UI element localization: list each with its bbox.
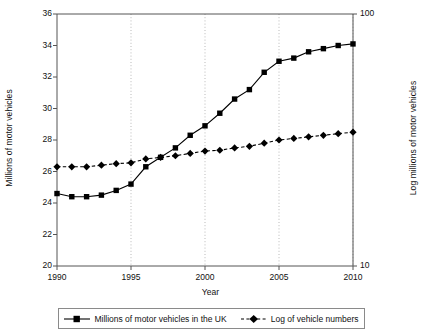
data-point-1 [127,159,134,166]
data-point-1 [231,144,238,151]
legend-item-1: Log of vehicle numbers [241,314,359,324]
data-point-1 [305,133,312,140]
data-point-1 [83,163,90,170]
data-point-1 [349,129,356,136]
data-point-1 [53,163,60,170]
data-point-1 [275,136,282,143]
legend-item-0: Millions of motor vehicles in the UK [64,314,226,324]
data-point-1 [290,135,297,142]
data-point-0 [276,59,281,64]
data-point-0 [143,164,148,169]
data-point-1 [187,150,194,157]
data-point-0 [128,181,133,186]
chart-figure: Millions of motor vehicles Log millions … [0,0,421,335]
legend-label-0: Millions of motor vehicles in the UK [94,314,226,324]
plot-area [0,0,421,335]
data-point-1 [98,162,105,169]
data-point-0 [262,70,267,75]
data-point-1 [142,155,149,162]
data-point-0 [188,133,193,138]
data-point-0 [217,111,222,116]
data-point-1 [201,147,208,154]
data-point-0 [202,123,207,128]
data-point-1 [261,140,268,147]
data-point-1 [216,147,223,154]
data-point-1 [68,163,75,170]
data-point-1 [113,160,120,167]
data-point-0 [350,41,355,46]
legend-label-1: Log of vehicle numbers [271,314,359,324]
data-point-1 [246,143,253,150]
data-point-0 [114,188,119,193]
data-point-0 [247,87,252,92]
data-point-0 [306,49,311,54]
data-point-0 [84,194,89,199]
data-point-0 [291,55,296,60]
data-point-1 [335,130,342,137]
data-point-1 [320,132,327,139]
data-point-0 [99,192,104,197]
data-point-0 [173,145,178,150]
data-point-0 [232,96,237,101]
data-point-0 [54,191,59,196]
data-point-0 [321,46,326,51]
data-point-1 [172,152,179,159]
data-point-0 [69,194,74,199]
legend-swatch-diamond-dashed [241,314,267,324]
chart-legend: Millions of motor vehicles in the UK Log… [58,308,365,329]
data-point-0 [336,43,341,48]
legend-swatch-square-solid [64,314,90,324]
